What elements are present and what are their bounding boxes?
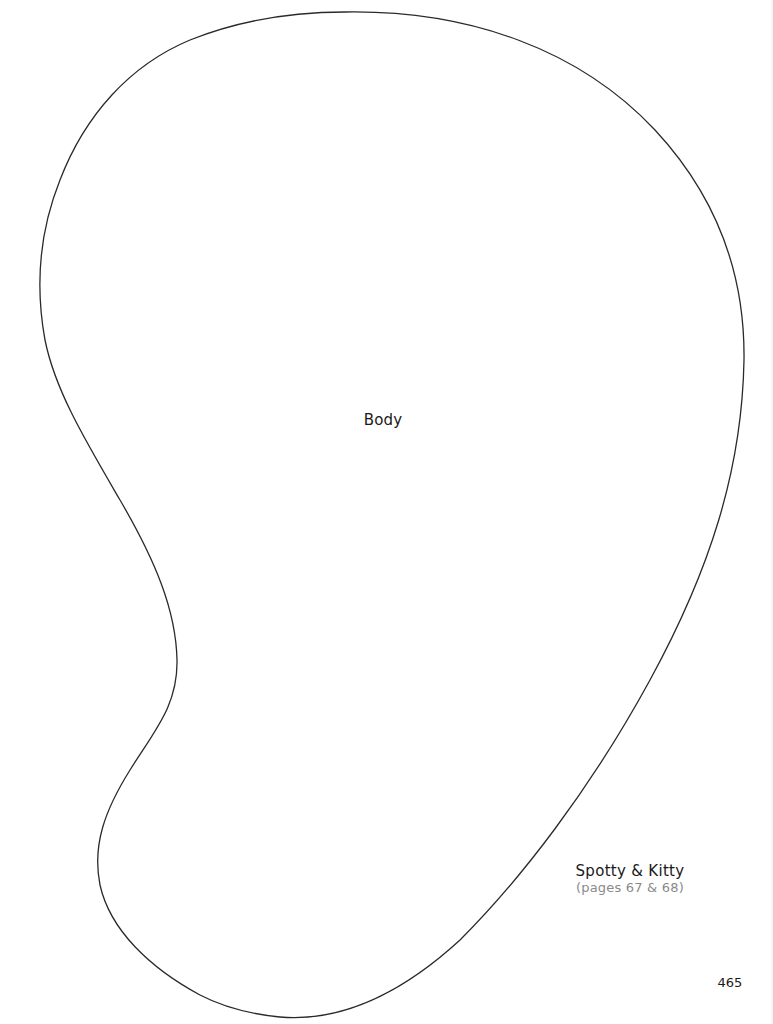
pattern-page: Body Spotty & Kitty (pages 67 & 68) 465 xyxy=(0,0,773,1024)
page-number: 465 xyxy=(700,975,760,990)
pattern-piece-label: Body xyxy=(333,411,433,429)
credit-pages: (pages 67 & 68) xyxy=(540,880,720,896)
credit-title: Spotty & Kitty xyxy=(540,862,720,880)
pattern-credit: Spotty & Kitty (pages 67 & 68) xyxy=(540,862,720,896)
